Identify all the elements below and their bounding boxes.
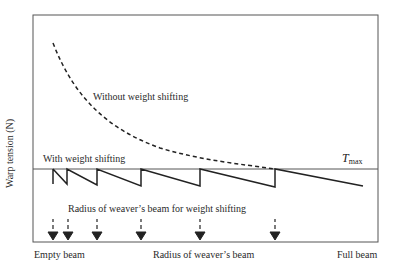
arrow-icon	[136, 219, 146, 240]
with-label: With weight shifting	[43, 153, 125, 164]
tmax-main: T	[342, 151, 349, 165]
arrow-icon	[195, 219, 205, 240]
tmax-label: Tmax	[342, 151, 362, 166]
without-label: Without weight shifting	[93, 91, 188, 102]
y-axis-label: Warp tension (N)	[4, 119, 15, 188]
arrow-icon	[270, 219, 280, 240]
with-weight-shifting-sawtooth	[53, 169, 363, 187]
tmax-sub: max	[349, 157, 363, 166]
arrow-icon	[48, 219, 58, 240]
arrow-icon	[92, 219, 102, 240]
empty-beam-label: Empty beam	[34, 249, 85, 260]
arrow-icon	[63, 219, 73, 240]
shift-radius-label: Radius of weaver’s beam for weight shift…	[68, 203, 246, 214]
shift-arrows	[48, 219, 280, 240]
full-beam-label: Full beam	[337, 249, 377, 260]
radius-label: Radius of weaver’s beam	[153, 249, 254, 260]
diagram-canvas	[0, 0, 397, 272]
without-weight-shifting-curve	[53, 43, 275, 169]
